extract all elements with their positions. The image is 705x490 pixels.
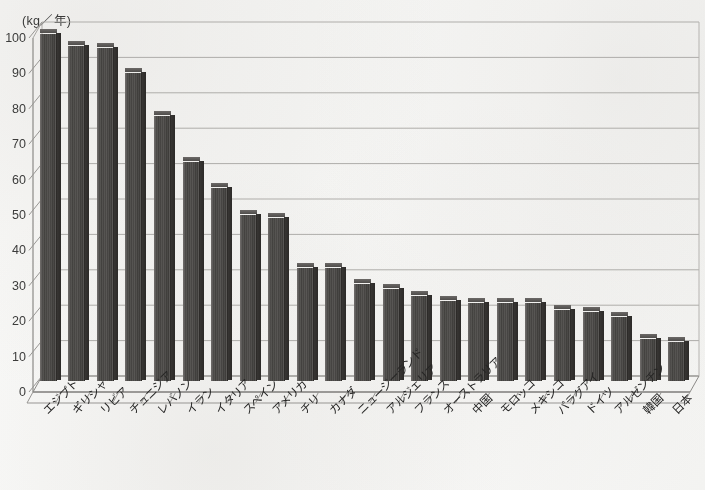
bar-front-face (668, 342, 685, 381)
bar-top-face (325, 263, 342, 267)
bar-front-face (554, 310, 571, 381)
y-axis-tick-label: 30 (0, 279, 26, 293)
bar-front-face (440, 301, 457, 381)
bar (183, 157, 200, 397)
y-axis-tick-label: 60 (0, 173, 26, 187)
bar (668, 337, 685, 397)
bar-top-face (411, 291, 428, 295)
bar (68, 41, 85, 397)
bar (611, 312, 628, 397)
bar (211, 183, 228, 397)
bar-front-face (211, 188, 228, 381)
bar-top-face (611, 312, 628, 316)
bar-front-face (68, 46, 85, 381)
bar-front-face (97, 48, 114, 381)
bar-top-face (183, 157, 200, 161)
y-axis-tick-label: 20 (0, 314, 26, 328)
bar (325, 263, 342, 397)
bar (240, 210, 257, 397)
y-axis-tick-label: 10 (0, 350, 26, 364)
y-axis-tick-label: 100 (0, 31, 26, 45)
bar (354, 279, 371, 397)
bar-top-face (354, 279, 371, 283)
bar-top-face (297, 263, 314, 267)
y-axis-tick-label: 80 (0, 102, 26, 116)
bar-front-face (240, 215, 257, 381)
y-axis-tick-label: 90 (0, 66, 26, 80)
bar-top-face (583, 307, 600, 311)
bar-front-face (154, 116, 171, 382)
bar-top-face (268, 213, 285, 217)
bar-front-face (268, 218, 285, 381)
y-axis-tick-label: 40 (0, 243, 26, 257)
bar-front-face (125, 73, 142, 381)
bar (154, 111, 171, 398)
bar-top-face (154, 111, 171, 115)
bar-front-face (354, 284, 371, 381)
bar-top-face (640, 334, 657, 338)
bar-top-face (525, 298, 542, 302)
bar-top-face (383, 284, 400, 288)
bar (97, 43, 114, 397)
bar-front-face (525, 303, 542, 381)
bar-front-face (611, 317, 628, 381)
bar-top-face (68, 41, 85, 45)
y-axis-tick-label: 0 (0, 385, 26, 399)
bar-front-face (325, 268, 342, 381)
bar-top-face (440, 296, 457, 300)
bar (497, 298, 514, 397)
bar-top-face (668, 337, 685, 341)
bar-top-face (240, 210, 257, 214)
bar-front-face (183, 162, 200, 381)
y-axis-tick-label: 50 (0, 208, 26, 222)
bar-chart-figure: (kg／年) 1009080706050403020100エジプトギリシャリビア… (0, 0, 705, 490)
bar (268, 213, 285, 397)
bar (125, 68, 142, 397)
bar-top-face (554, 305, 571, 309)
bar-top-face (125, 68, 142, 72)
bar-front-face (40, 34, 57, 381)
bar-top-face (211, 183, 228, 187)
bar-top-face (97, 43, 114, 47)
bar-front-face (297, 268, 314, 381)
bar (40, 29, 57, 397)
bar-front-face (497, 303, 514, 381)
bar-top-face (497, 298, 514, 302)
bar-top-face (40, 29, 57, 33)
bar-top-face (468, 298, 485, 302)
y-axis-tick-label: 70 (0, 137, 26, 151)
